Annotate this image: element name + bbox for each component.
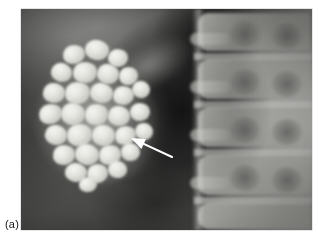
panel-label: (a) (5, 218, 19, 230)
film-vignette (21, 9, 312, 230)
radiograph-image[interactable] (21, 9, 312, 230)
figure-panel: (a) (0, 0, 318, 250)
